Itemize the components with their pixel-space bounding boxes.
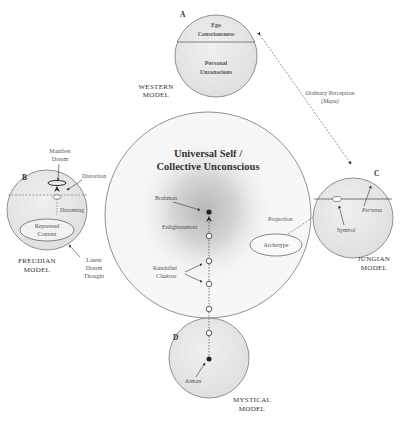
archetype-label: Archetype <box>264 242 289 248</box>
brahman-label: Brahman <box>155 195 177 201</box>
projection-label: Projection <box>268 216 293 222</box>
jungian-letter: C <box>374 169 379 178</box>
chakra-node <box>206 306 212 312</box>
western-model-line2: MODEL <box>143 91 169 99</box>
psyche-models-diagram: Universal Self / Collective Unconscious … <box>0 0 410 426</box>
chakra-node <box>206 233 212 239</box>
mystical-model: D Atman MYSTICAL MODEL <box>169 318 271 413</box>
jungian-model-line2: MODEL <box>361 264 387 272</box>
brahman-point <box>206 209 211 214</box>
universal-self-title-line1: Universal Self / <box>174 148 243 159</box>
freudian-model-line2: MODEL <box>24 266 50 274</box>
manifest-dream-disc <box>48 181 66 186</box>
persona-label: Persona <box>361 207 382 213</box>
chakra-node <box>206 330 212 336</box>
latent-dream-arrow <box>69 245 80 257</box>
symbol-label: Symbol <box>337 227 356 233</box>
ego-line2: Consciousness <box>198 31 235 37</box>
atman-label: Atman <box>185 378 201 384</box>
censor-node <box>53 195 61 199</box>
repressed-line2: Content <box>38 231 57 237</box>
enlightenment-label: Enlightenment <box>162 224 198 230</box>
personal-unconscious-line1: Personal <box>205 60 228 66</box>
repressed-line1: Repressed <box>35 223 60 229</box>
chakra-node <box>206 281 212 287</box>
perception-line2: (Maya) <box>321 98 339 105</box>
distortion-label: Distortion <box>82 173 106 179</box>
mystical-model-line2: MODEL <box>239 405 265 413</box>
perception-line1: Ordinary Perception <box>306 90 355 96</box>
latent-line1: Latent <box>86 257 102 263</box>
freudian-letter: B <box>22 173 27 182</box>
universal-self-title-line2: Collective Unconscious <box>157 161 260 172</box>
freudian-model: B Manifest Dream Distortion Dreaming Rep… <box>7 148 106 279</box>
mystical-letter: D <box>173 333 179 342</box>
ego-line1: Ego <box>211 22 221 28</box>
manifest-dream-line2: Dream <box>52 156 69 162</box>
western-letter: A <box>180 10 186 19</box>
manifest-dream-line1: Manifest <box>49 148 71 154</box>
mystical-model-line1: MYSTICAL <box>233 396 271 404</box>
chakra-node <box>206 258 212 264</box>
western-model: A Ego Consciousness Personal Unconscious… <box>138 10 257 99</box>
chakras-label: Chakras <box>156 273 177 279</box>
atman-point <box>207 357 212 362</box>
jungian-model: C Persona Symbol JUNGIAN MODEL <box>313 164 393 272</box>
personal-unconscious-line2: Unconscious <box>200 69 233 75</box>
jungian-model-line1: JUNGIAN <box>358 255 390 263</box>
western-model-line1: WESTERN <box>138 83 173 91</box>
symbol-node <box>333 197 342 202</box>
latent-line3: Thought <box>84 273 105 279</box>
kundalini-label: Kundalini <box>153 265 177 271</box>
dreaming-label: Dreaming <box>60 207 84 213</box>
latent-line2: Dream <box>86 265 103 271</box>
freudian-model-line1: FREUDIAN <box>18 257 56 265</box>
